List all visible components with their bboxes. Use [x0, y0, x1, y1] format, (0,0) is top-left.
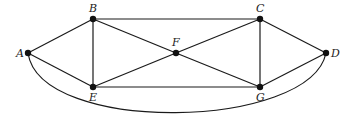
node-label-a: A: [15, 47, 24, 60]
node-label-b: B: [88, 2, 97, 15]
edge-e-f: [93, 53, 176, 87]
edge-g-d: [260, 53, 326, 87]
edge-a-b: [28, 19, 93, 53]
edge-a-e: [28, 53, 93, 87]
node-e: [90, 84, 96, 90]
curved-edge-a-d: [28, 53, 326, 113]
edge-f-c: [176, 19, 260, 53]
node-d: [323, 50, 329, 56]
node-a: [25, 50, 31, 56]
graph-diagram: ABCDEFG: [0, 0, 349, 125]
node-label-e: E: [88, 91, 97, 104]
edge-f-g: [176, 53, 260, 87]
node-label-c: C: [256, 2, 265, 15]
edge-c-d: [260, 19, 326, 53]
node-g: [257, 84, 263, 90]
node-label-d: D: [330, 47, 340, 60]
node-b: [90, 16, 96, 22]
node-c: [257, 16, 263, 22]
nodes-group: ABCDEFG: [15, 2, 340, 104]
node-f: [173, 50, 179, 56]
node-label-f: F: [171, 36, 180, 49]
edge-b-f: [93, 19, 176, 53]
node-label-g: G: [256, 91, 265, 104]
edges-group: [28, 19, 326, 113]
